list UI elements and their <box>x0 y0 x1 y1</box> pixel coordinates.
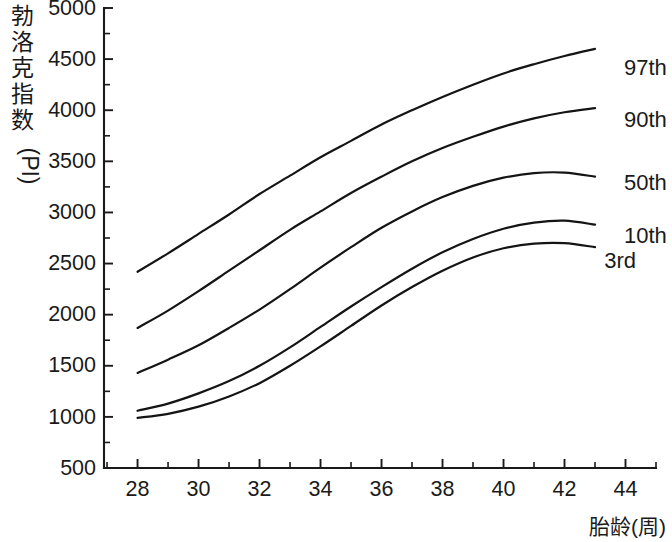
x-tick-label: 28 <box>126 477 150 501</box>
x-tick-label: 34 <box>309 477 333 501</box>
y-tick-label: 500 <box>60 456 96 480</box>
y-tick-label: 4000 <box>48 98 96 122</box>
series-labels: 97th90th50th10th3rd <box>604 55 667 273</box>
series-label-90th: 90th <box>624 107 667 132</box>
y-tick-label: 1500 <box>48 353 96 377</box>
y-tick-label: 2000 <box>48 302 96 326</box>
y-tick-label: 3000 <box>48 200 96 224</box>
x-tick-label: 42 <box>553 477 577 501</box>
y-axis-title-char-2: 克 <box>11 55 34 81</box>
y-tick-label: 2500 <box>48 251 96 275</box>
y-axis-title-char-4: 数 <box>11 107 34 133</box>
x-tick-label: 38 <box>431 477 455 501</box>
x-tick-label: 30 <box>187 477 211 501</box>
chart-canvas: 勃 洛 克 指 数 (PI) 5001000150020002500300035… <box>0 0 672 542</box>
percentile-growth-chart: 勃 洛 克 指 数 (PI) 5001000150020002500300035… <box>0 0 672 542</box>
x-tick-label: 32 <box>248 477 272 501</box>
y-tick-label: 5000 <box>48 0 96 20</box>
series-label-50th: 50th <box>624 170 667 195</box>
percentile-curves <box>138 49 595 418</box>
series-label-3rd: 3rd <box>604 248 636 273</box>
x-axis-ticks: 283032343638404244 <box>107 459 656 501</box>
y-axis-title-char-3: 指 <box>11 81 34 107</box>
y-tick-label: 3500 <box>48 149 96 173</box>
series-label-97th: 97th <box>624 55 667 80</box>
curve-50th <box>138 172 595 373</box>
y-axis-title: 勃 洛 克 指 数 (PI) <box>11 3 44 185</box>
series-label-10th: 10th <box>624 223 667 248</box>
x-tick-label: 36 <box>370 477 394 501</box>
y-axis-title-char-1: 洛 <box>11 29 34 55</box>
y-tick-label: 1000 <box>48 405 96 429</box>
y-tick-label: 4500 <box>48 47 96 71</box>
x-tick-label: 44 <box>614 477 638 501</box>
curve-90th <box>138 108 595 328</box>
y-axis-title-char-0: 勃 <box>11 3 34 29</box>
x-tick-label: 40 <box>492 477 516 501</box>
y-axis-title-unit: (PI) <box>17 147 43 184</box>
axes <box>104 8 656 468</box>
x-axis-title: 胎龄(周) <box>589 515 666 538</box>
